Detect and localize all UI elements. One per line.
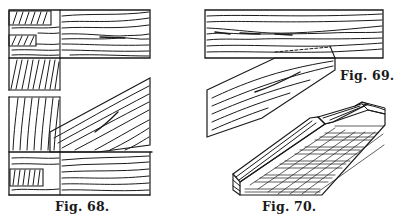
fig68-drawing (9, 10, 152, 195)
fig70-drawing (233, 102, 385, 195)
fig69-caption: Fig. 69. (340, 68, 394, 83)
engraving-canvas (0, 0, 394, 218)
fig68-caption: Fig. 68. (55, 199, 109, 214)
fig70-caption: Fig. 70. (262, 199, 316, 214)
